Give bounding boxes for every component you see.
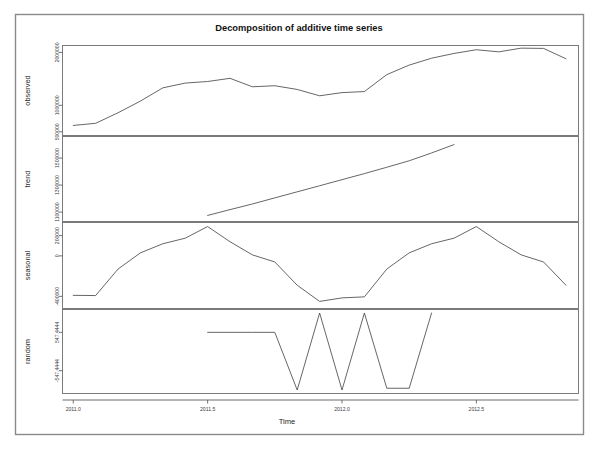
y-tick-label-trend: 1300000 <box>54 175 60 195</box>
panel-label-trend: trend <box>23 171 32 188</box>
y-tick-label-observed: 500000 <box>54 123 60 140</box>
x-axis-label: Time <box>279 417 296 426</box>
y-tick-label-seasonal: 0 <box>54 254 60 257</box>
x-tick-label: 2011.0 <box>66 406 81 412</box>
y-tick-label-trend: 1100000 <box>54 202 60 222</box>
panel-label-observed: observed <box>23 75 32 105</box>
y-tick-label-observed: 2000000 <box>54 42 60 62</box>
y-tick-label-seasonal: -400000 <box>54 287 60 306</box>
y-tick-label-random: -547.4444 <box>54 359 60 382</box>
x-tick-label: 2012.0 <box>334 406 350 412</box>
decomposition-plot: Decomposition of additive time series 50… <box>0 0 599 449</box>
figure-border <box>16 15 584 435</box>
y-tick-label-seasonal: 200000 <box>54 227 60 244</box>
x-tick-label: 2011.5 <box>200 406 215 412</box>
y-tick-label-random: 547.4444 <box>54 322 60 343</box>
figure-root: Decomposition of additive time series 50… <box>0 0 599 449</box>
y-tick-label-observed: 1000000 <box>54 95 60 115</box>
chart-title: Decomposition of additive time series <box>215 23 382 33</box>
panel-label-seasonal: seasonal <box>23 250 32 280</box>
x-tick-label: 2012.5 <box>469 406 485 412</box>
panel-label-random: random <box>23 339 32 364</box>
y-tick-label-trend: 1500000 <box>54 148 60 168</box>
